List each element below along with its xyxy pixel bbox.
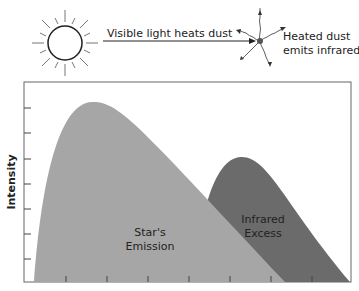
- dust-grain-icon: [257, 38, 263, 44]
- infrared-ray-icon: [239, 8, 283, 64]
- figure: Visible light heats dust Heated dust emi…: [0, 0, 359, 291]
- sun-icon: [32, 10, 98, 76]
- infrared-label-line2: Excess: [244, 227, 282, 240]
- star-label-line1: Star's: [134, 226, 166, 239]
- infrared-label-line1: Infrared: [241, 213, 284, 226]
- dust-label-line2: emits infrared: [283, 44, 359, 57]
- y-axis-label: Intensity: [5, 154, 18, 209]
- arrow-label: Visible light heats dust: [107, 27, 233, 40]
- dust-label-line1: Heated dust: [283, 30, 351, 43]
- star-label-line2: Emission: [126, 240, 175, 253]
